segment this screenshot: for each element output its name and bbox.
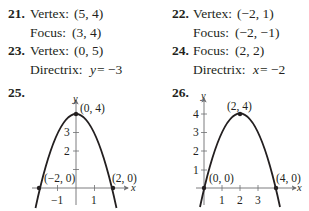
vertex-point bbox=[74, 112, 78, 116]
y-tick-label: 1 bbox=[193, 164, 199, 176]
intercept-point bbox=[111, 186, 115, 190]
y-tick-label: 3 bbox=[193, 126, 199, 138]
x-tick-label: 3 bbox=[255, 194, 261, 206]
vertex-point bbox=[238, 112, 242, 116]
intercept-label: (4, 0) bbox=[276, 172, 301, 184]
parabola-curve bbox=[200, 114, 280, 208]
vertex-label: (0, 4) bbox=[80, 102, 105, 114]
intercept-point bbox=[37, 186, 41, 190]
intercept-point bbox=[274, 186, 278, 190]
intercept-label: (2, 0) bbox=[112, 172, 137, 184]
x-tick-label: 1 bbox=[91, 194, 97, 206]
x-tick-label: 2 bbox=[237, 194, 243, 206]
graph-25 bbox=[32, 100, 128, 208]
graph-26 bbox=[196, 98, 296, 207]
x-tick-label: −1 bbox=[51, 194, 63, 206]
intercept-point bbox=[202, 186, 206, 190]
y-tick-label: 2 bbox=[64, 145, 70, 157]
intercept-label: (−2, 0) bbox=[44, 172, 75, 184]
y-tick-label: 2 bbox=[193, 145, 199, 157]
y-axis-label: y bbox=[73, 93, 78, 105]
y-axis-label: y bbox=[201, 90, 206, 102]
intercept-label: (0, 0) bbox=[209, 172, 234, 184]
x-tick-label: 1 bbox=[219, 194, 225, 206]
y-tick-label: 3 bbox=[64, 126, 70, 138]
vertex-label: (2, 4) bbox=[227, 100, 252, 112]
y-tick-label: 4 bbox=[193, 108, 199, 120]
